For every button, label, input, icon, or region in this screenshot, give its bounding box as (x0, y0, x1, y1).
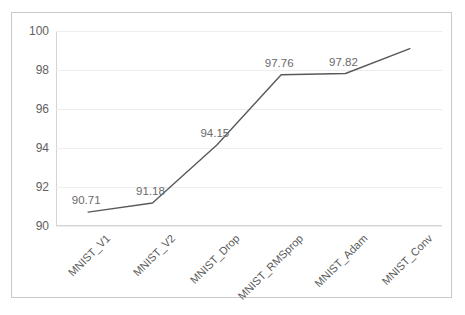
cropped-top-text-label: · · · · (6, 0, 32, 3)
x-axis-tick: MNIST_V1 (66, 232, 113, 279)
data-point-label: 97.82 (329, 56, 358, 68)
plot-area: 9092949698100 90.7191.1894.1597.7697.82 … (56, 31, 442, 226)
y-axis-tick: 90 (36, 219, 49, 233)
line-series (56, 31, 442, 226)
x-axis-tick: MNIST_V2 (130, 232, 177, 279)
x-axis-tick: MNIST_Conv (379, 232, 434, 287)
data-point-label: 97.76 (265, 57, 294, 69)
y-axis-tick: 92 (36, 180, 49, 194)
x-axis-tick: MNIST_RMSprop (236, 232, 306, 302)
y-axis-tick: 100 (29, 24, 49, 38)
y-axis-tick: 96 (36, 102, 49, 116)
y-axis-tick: 98 (36, 63, 49, 77)
x-axis-tick: MNIST_Adam (313, 232, 370, 289)
data-point-label: 94.15 (200, 127, 229, 139)
x-axis-tick: MNIST_Drop (187, 232, 241, 286)
gridline (56, 226, 442, 227)
y-axis-tick: 94 (36, 141, 49, 155)
cropped-top-text: · · · · (0, 0, 465, 10)
data-point-label: 90.71 (72, 194, 101, 206)
data-point-label: 91.18 (136, 185, 165, 197)
chart-frame: 9092949698100 90.7191.1894.1597.7697.82 … (11, 12, 452, 298)
